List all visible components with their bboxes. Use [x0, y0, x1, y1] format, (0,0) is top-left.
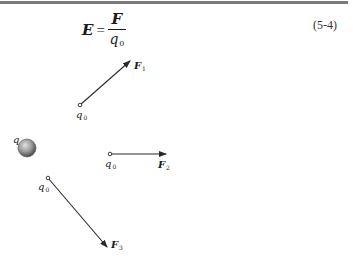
test-charge-label-3: q0 [38, 182, 49, 193]
q-symbol: q [76, 109, 82, 120]
force-diagram [0, 0, 360, 265]
q-subscript: 0 [83, 114, 87, 121]
test-charge-point-2 [108, 152, 112, 156]
source-charge-label: q [13, 135, 19, 145]
f-symbol: F [111, 239, 118, 250]
force-arrow-f1 [80, 61, 130, 105]
q-symbol: q [38, 181, 44, 192]
test-charge-point-1 [78, 103, 82, 107]
f-symbol: F [158, 159, 165, 170]
q-subscript: 0 [112, 163, 116, 170]
f-symbol: F [134, 60, 141, 71]
q-subscript: 0 [45, 186, 49, 193]
f-subscript: 3 [119, 244, 123, 251]
source-charge-sphere-icon [18, 139, 36, 157]
force-arrow-f3 [48, 178, 107, 247]
test-charge-point-3 [46, 176, 50, 180]
f-subscript: 2 [166, 164, 170, 171]
force-label-f2: F2 [158, 160, 170, 171]
test-charge-label-1: q0 [76, 110, 87, 121]
force-label-f1: F1 [134, 61, 146, 72]
force-label-f3: F3 [111, 240, 123, 251]
q-symbol: q [105, 158, 111, 169]
f-subscript: 1 [142, 65, 146, 72]
test-charge-label-2: q0 [105, 159, 116, 170]
